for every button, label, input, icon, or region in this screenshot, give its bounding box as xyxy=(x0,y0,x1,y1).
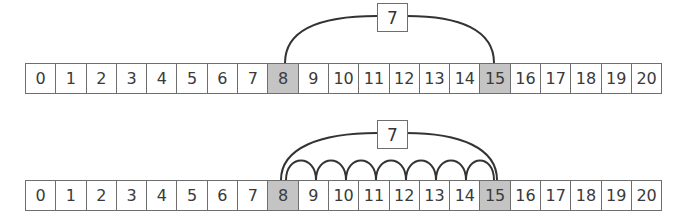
big-jump-arc-bottom-right xyxy=(406,133,497,180)
number-cell: 3 xyxy=(116,63,147,94)
number-cell: 1 xyxy=(55,180,86,211)
big-jump-arc-top xyxy=(285,16,377,63)
number-cell: 6 xyxy=(207,180,238,211)
number-cell: 13 xyxy=(419,180,450,211)
number-cell: 10 xyxy=(328,180,359,211)
number-cell: 20 xyxy=(631,180,662,211)
number-cell: 16 xyxy=(510,180,541,211)
number-cell: 14 xyxy=(449,180,480,211)
number-cell: 8 xyxy=(267,63,298,94)
number-cell: 18 xyxy=(570,180,601,211)
number-cell: 15 xyxy=(479,63,510,94)
number-line-top: 01234567891011121314151617181920 xyxy=(25,63,662,92)
jump-label-bottom: 7 xyxy=(377,120,408,149)
number-cell: 11 xyxy=(358,63,389,94)
number-cell: 16 xyxy=(510,63,541,94)
number-cell: 15 xyxy=(479,180,510,211)
number-cell: 8 xyxy=(267,180,298,211)
number-cell: 0 xyxy=(25,180,56,211)
number-cell: 9 xyxy=(298,63,329,94)
big-jump-arc-top-right xyxy=(407,16,494,63)
jump-label-top: 7 xyxy=(377,3,408,32)
number-cell: 11 xyxy=(358,180,389,211)
number-cell: 9 xyxy=(298,180,329,211)
number-cell: 7 xyxy=(237,63,268,94)
number-cell: 4 xyxy=(146,63,177,94)
number-cell: 1 xyxy=(55,63,86,94)
number-cell: 5 xyxy=(176,63,207,94)
number-cell: 12 xyxy=(389,180,420,211)
number-cell: 7 xyxy=(237,180,268,211)
number-cell: 4 xyxy=(146,180,177,211)
number-cell: 20 xyxy=(631,63,662,94)
number-cell: 14 xyxy=(449,63,480,94)
unit-hop-arcs xyxy=(286,161,494,181)
number-cell: 18 xyxy=(570,63,601,94)
number-cell: 0 xyxy=(25,63,56,94)
number-cell: 12 xyxy=(389,63,420,94)
number-cell: 19 xyxy=(601,63,632,94)
number-cell: 5 xyxy=(176,180,207,211)
number-cell: 6 xyxy=(207,63,238,94)
number-cell: 2 xyxy=(86,63,117,94)
number-cell: 2 xyxy=(86,180,117,211)
big-jump-arc-bottom xyxy=(281,133,377,180)
number-cell: 17 xyxy=(540,63,571,94)
number-cell: 17 xyxy=(540,180,571,211)
number-line-bottom: 01234567891011121314151617181920 xyxy=(25,180,662,209)
number-cell: 10 xyxy=(328,63,359,94)
number-cell: 19 xyxy=(601,180,632,211)
number-cell: 13 xyxy=(419,63,450,94)
number-cell: 3 xyxy=(116,180,147,211)
